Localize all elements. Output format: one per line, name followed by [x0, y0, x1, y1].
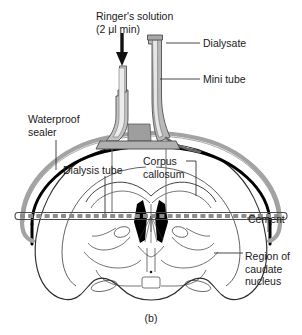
- figure-caption: (b): [0, 312, 302, 325]
- corpus-line1: Corpus: [143, 155, 177, 167]
- region-line1: Region of: [245, 250, 290, 262]
- label-waterproof-sealer: Waterproof sealer: [28, 113, 80, 138]
- cement-block-center: [128, 124, 151, 141]
- dialysis-tube-left-cap: [15, 213, 18, 220]
- midline-dot: [150, 271, 153, 274]
- region-line2: caudate: [245, 263, 282, 275]
- label-ringers-solution: Ringer's solution (2 μl min): [96, 10, 173, 35]
- region-line3: nucleus: [245, 275, 281, 287]
- microdialysis-figure: Ringer's solution (2 μl min) Dialysate M…: [0, 0, 302, 335]
- cement-base-slab: [96, 141, 180, 149]
- waterproof-line2: sealer: [28, 126, 57, 138]
- label-mini-tube: Mini tube: [203, 73, 246, 86]
- waterproof-line1: Waterproof: [28, 113, 80, 125]
- label-corpus-callosum: Corpus callosum: [143, 155, 184, 180]
- mini-tube-cap: [148, 35, 163, 40]
- label-cement: Cement: [248, 213, 285, 226]
- down-arrow-icon: [116, 33, 128, 66]
- ringers-line1: Ringer's solution: [96, 10, 173, 22]
- label-dialysis-tube: Dialysis tube: [63, 164, 123, 177]
- corpus-line2: callosum: [143, 168, 184, 180]
- label-region-caudate-nucleus: Region of caudate nucleus: [245, 250, 290, 288]
- label-dialysate: Dialysate: [203, 37, 246, 50]
- ringers-line2: (2 μl min): [96, 23, 140, 35]
